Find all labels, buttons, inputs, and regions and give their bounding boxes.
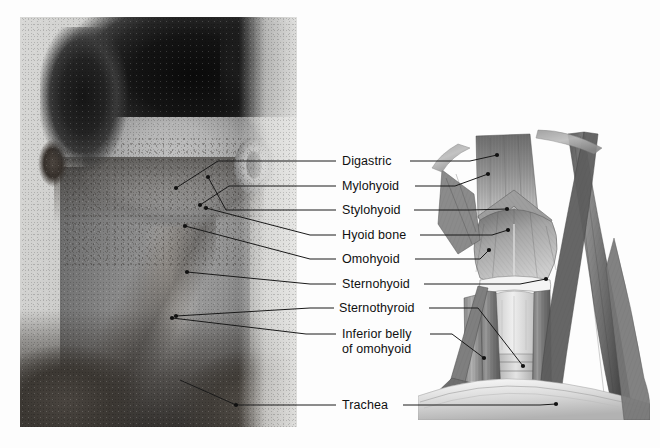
photo-stubble-texture [64,137,264,267]
label-sternohyoid: Sternohyoid [342,277,410,292]
photo-light-band [239,17,297,427]
label-sternothyroid: Sternothyroid [339,301,415,316]
label-hyoid-bone: Hyoid bone [342,228,406,243]
label-inferior-belly: Inferior bellyof omohyoid [342,327,412,357]
label-text-trachea: Trachea [342,398,388,413]
label-text-mylohyoid: Mylohyoid [342,179,399,194]
label-trachea: Trachea [342,398,388,413]
label-text-hyoid-bone: Hyoid bone [342,228,406,243]
art-stylohyoid [438,170,480,254]
neck-muscle-illustration [418,128,650,420]
label-text2-inferior-belly: of omohyoid [342,342,412,357]
label-text-omohyoid: Omohyoid [342,252,400,267]
illustration-canvas [418,128,650,420]
label-text-sternohyoid: Sternohyoid [342,277,410,292]
anatomy-figure: DigastricMylohyoidStylohyoidHyoid boneOm… [0,0,660,448]
photo-shoulder-left [20,325,150,427]
label-text-inferior-belly: Inferior belly [342,327,412,342]
label-omohyoid: Omohyoid [342,252,400,267]
label-stylohyoid: Stylohyoid [342,203,401,218]
label-text-sternothyroid: Sternothyroid [339,301,415,316]
label-mylohyoid: Mylohyoid [342,179,399,194]
label-digastric: Digastric [342,154,392,169]
label-text-digastric: Digastric [342,154,392,169]
label-text-stylohyoid: Stylohyoid [342,203,401,218]
surface-anatomy-photograph [20,17,297,427]
